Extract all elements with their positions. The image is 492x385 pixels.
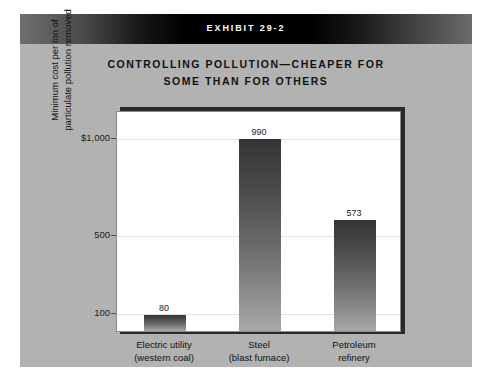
bar — [239, 139, 281, 331]
exhibit-number-label: EXHIBIT 29-2 — [20, 23, 472, 33]
exhibit-banner: EXHIBIT 29-2 — [20, 14, 472, 44]
exhibit-panel: EXHIBIT 29-2 CONTROLLING POLLUTION—CHEAP… — [20, 14, 472, 367]
category-label-line: Electric utility — [109, 338, 219, 351]
x-axis-category-label: Steel(blast furnace) — [204, 338, 314, 364]
y-tick-label: $1,000 — [54, 132, 110, 143]
category-label-line: (blast furnace) — [204, 351, 314, 364]
chart-title: CONTROLLING POLLUTION—CHEAPER FOR SOME T… — [20, 56, 472, 90]
x-axis-category-label: Petroleumrefinery — [299, 338, 409, 364]
plot-area — [116, 111, 401, 332]
chart-title-line-1: CONTROLLING POLLUTION—CHEAPER FOR — [20, 56, 472, 73]
bar — [334, 220, 376, 331]
bar — [144, 315, 186, 331]
category-label-line: (western coal) — [109, 351, 219, 364]
category-label-line: Petroleum — [299, 338, 409, 351]
y-tick-label: 100 — [54, 307, 110, 318]
y-tick-label: 500 — [54, 229, 110, 240]
x-axis-category-label: Electric utility(western coal) — [109, 338, 219, 364]
category-label-line: refinery — [299, 351, 409, 364]
bar-value-label: 573 — [324, 208, 384, 218]
chart-title-line-2: SOME THAN FOR OTHERS — [20, 73, 472, 90]
bar-value-label: 990 — [229, 127, 289, 137]
category-label-line: Steel — [204, 338, 314, 351]
bar-value-label: 80 — [134, 303, 194, 313]
